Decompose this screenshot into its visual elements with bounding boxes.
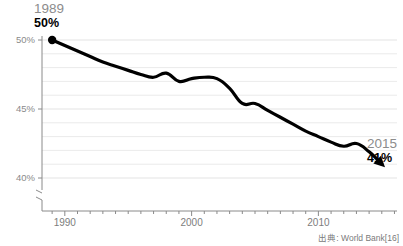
data-series-line	[52, 40, 382, 164]
annotation-end-value: 41%	[367, 151, 397, 165]
line-chart-plot	[0, 0, 403, 246]
y-axis-tick-label: 40%	[1, 172, 35, 183]
source-caption: 出典: World Bank[16]	[318, 231, 399, 243]
annotation-start-value: 50%	[34, 16, 64, 30]
y-axis	[36, 36, 42, 211]
x-axis-tick-label: 2000	[170, 217, 214, 228]
chart-container: 1989 50% 2015 41% 出典: World Bank[16] 50%…	[0, 0, 403, 246]
gridline-group	[42, 40, 397, 178]
annotation-end: 2015 41%	[367, 137, 397, 165]
data-point-markers	[48, 36, 385, 168]
annotation-end-year: 2015	[367, 137, 397, 151]
annotation-start: 1989 50%	[34, 2, 64, 30]
x-axis-tick-label: 1990	[43, 217, 87, 228]
x-axis-tick-label: 2010	[296, 217, 340, 228]
y-axis-tick-label: 50%	[1, 34, 35, 45]
annotation-start-year: 1989	[34, 2, 64, 16]
x-axis	[42, 211, 397, 216]
y-axis-tick-label: 45%	[1, 103, 35, 114]
